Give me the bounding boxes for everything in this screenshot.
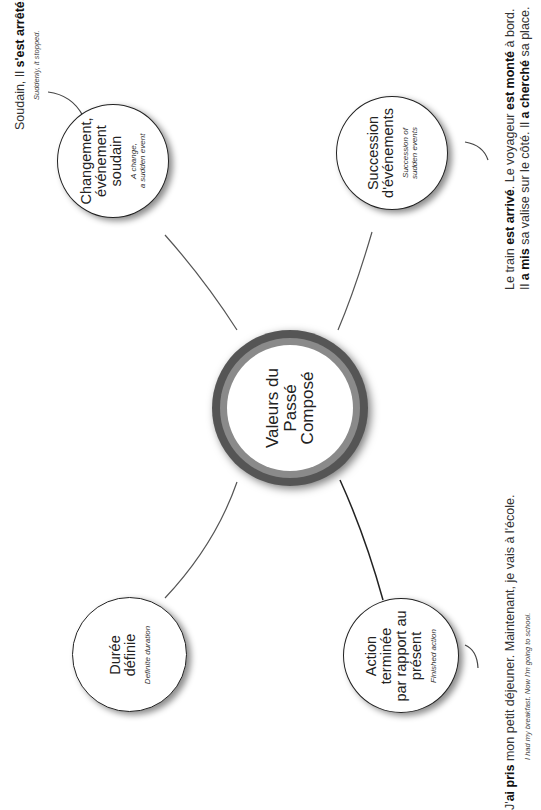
node-action-text: Action terminée par rapport au présent F… — [364, 610, 438, 701]
connector-action — [340, 480, 383, 600]
connector-changement — [165, 235, 237, 330]
node-duree: Durée définie Definite duration — [72, 597, 187, 712]
central-title: Valeurs du Passé Composé — [264, 368, 317, 448]
example-train-line1: Le train est arrivé. Le voyageur est mon… — [503, 6, 518, 290]
bracket-train — [465, 142, 488, 160]
central-core: Valeurs du Passé Composé — [227, 345, 353, 471]
bracket-soudain — [48, 92, 83, 116]
connector-succession — [338, 232, 372, 330]
connector-duree — [165, 482, 237, 598]
example-dejeuner-fr: J'ai pris mon petit déjeuner. Maintenant… — [503, 495, 518, 810]
bracket-dejeuner — [465, 645, 478, 668]
example-dejeuner-en: I had my breakfast. Now I'm going to sch… — [523, 495, 533, 810]
example-soudain-en: Suddenly, it stopped. — [32, 0, 42, 130]
node-action: Action terminée par rapport au présent F… — [343, 598, 459, 713]
example-soudain-fr: Soudain, Il s'est arrêté. — [13, 0, 28, 130]
node-changement-text: Changement, événement soudain A change, … — [79, 117, 147, 204]
central-node: Valeurs du Passé Composé — [212, 330, 368, 486]
example-train: Le train est arrivé. Le voyageur est mon… — [503, 6, 533, 290]
example-train-line2: Il a mis sa valise sur le côté. Il a che… — [518, 6, 533, 290]
node-succession-text: Succession d'événements Succession of su… — [366, 108, 419, 198]
node-duree-text: Durée définie Definite duration — [108, 625, 152, 683]
node-succession: Succession d'événements Succession of su… — [336, 96, 448, 210]
node-changement: Changement, événement soudain A change, … — [57, 104, 169, 218]
example-soudain: Soudain, Il s'est arrêté. Suddenly, it s… — [13, 0, 42, 130]
example-dejeuner: J'ai pris mon petit déjeuner. Maintenant… — [503, 495, 533, 810]
